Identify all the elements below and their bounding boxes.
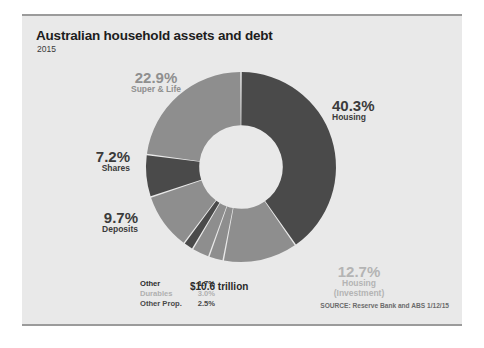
legend: Other 1.7% Durables 3.0% Other Prop. 2.5… <box>140 278 215 309</box>
slice-label-housing: 40.3% Housing <box>332 98 375 123</box>
slice-pct-housing-investment: 12.7% <box>304 264 414 279</box>
slice-pct-shares: 7.2% <box>40 149 130 164</box>
legend-value-other-prop: 2.5% <box>182 298 215 308</box>
slice-label-deposits: 9.7% Deposits <box>40 210 138 235</box>
slice-name-deposits: Deposits <box>40 225 138 235</box>
legend-label-other: Other <box>140 278 182 288</box>
slice-label-shares: 7.2% Shares <box>40 149 130 174</box>
slice-name-housing-investment-qualifier: (Investment) <box>304 289 414 299</box>
legend-value-durables: 3.0% <box>182 288 215 298</box>
slice-name-shares: Shares <box>40 164 130 174</box>
slice-name-housing: Housing <box>332 113 375 123</box>
legend-row-other: Other 1.7% <box>140 278 215 288</box>
legend-value-other: 1.7% <box>182 278 215 288</box>
legend-row-other-prop: Other Prop. 2.5% <box>140 298 215 308</box>
legend-row-durables: Durables 3.0% <box>140 288 215 298</box>
legend-label-durables: Durables <box>140 288 182 298</box>
slice-label-housing-investment: 12.7% Housing (Investment) <box>304 264 414 298</box>
slice-pct-super-life: 22.9% <box>110 70 202 85</box>
source-note: SOURCE: Reserve Bank and ABS 1/12/15 <box>320 302 449 309</box>
slice-label-super-life: 22.9% Super & Life <box>110 70 202 95</box>
legend-table: Other 1.7% Durables 3.0% Other Prop. 2.5… <box>140 278 215 309</box>
chart-card: Australian household assets and debt 201… <box>22 14 462 326</box>
slice-name-super-life: Super & Life <box>110 85 202 95</box>
slice-pct-housing: 40.3% <box>332 98 375 113</box>
legend-label-other-prop: Other Prop. <box>140 298 182 308</box>
slice-pct-deposits: 9.7% <box>40 210 138 225</box>
